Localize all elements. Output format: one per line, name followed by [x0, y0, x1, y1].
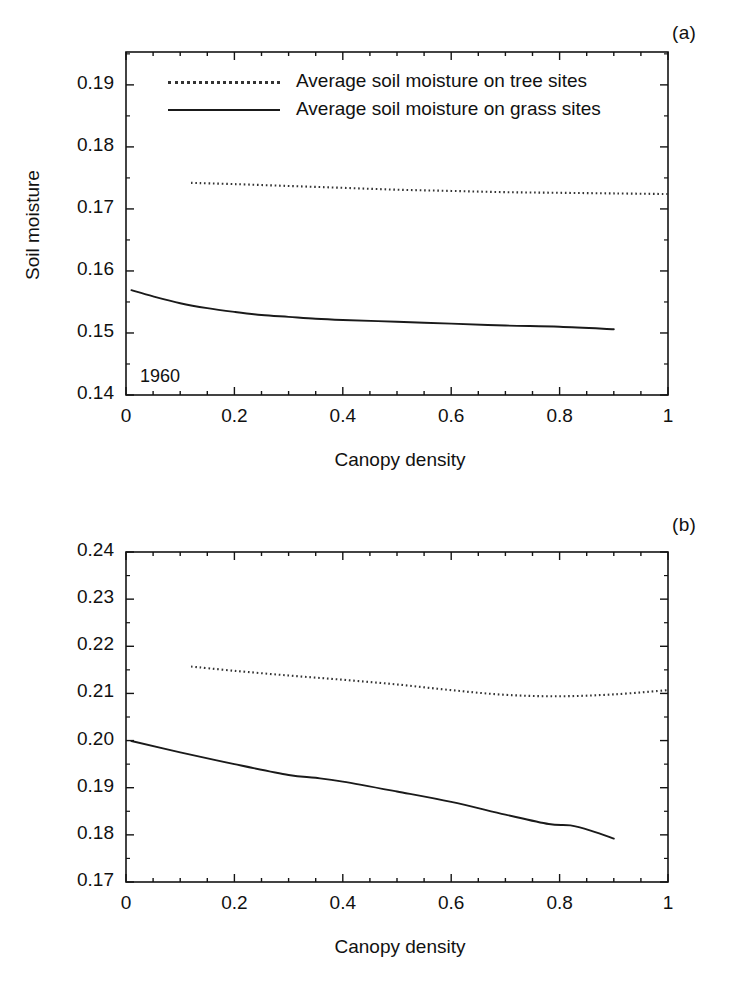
x-tick-label: 0.2 [209, 892, 259, 914]
y-tick-label: 0.18 [52, 134, 114, 156]
x-tick-label: 0.6 [426, 892, 476, 914]
figure-soil-moisture-vs-canopy-density: (a) Average soil moisture on tree sites … [0, 0, 736, 987]
x-tick-label: 0.4 [318, 405, 368, 427]
x-tick-label: 1 [643, 892, 693, 914]
y-tick-label: 0.15 [52, 320, 114, 342]
chart-panel-b: (b) Average soil moisture on tree sites … [0, 494, 736, 987]
year-annotation-a: 1960 [140, 366, 180, 387]
x-tick-label: 1 [643, 405, 693, 427]
y-tick-label: 0.18 [52, 822, 114, 844]
legend-swatch-dotted-icon [168, 81, 280, 87]
x-tick-label: 0.4 [318, 892, 368, 914]
legend-swatch-solid-icon [168, 109, 280, 114]
y-tick-label: 0.20 [52, 728, 114, 750]
y-tick-label: 0.21 [52, 680, 114, 702]
y-tick-label: 0.19 [52, 72, 114, 94]
y-axis-label-a: Soil moisture [22, 145, 44, 305]
x-axis-label-a: Canopy density [250, 449, 550, 471]
y-tick-label: 0.16 [52, 258, 114, 280]
y-tick-label: 0.17 [52, 869, 114, 891]
y-tick-label: 0.17 [52, 196, 114, 218]
y-tick-label: 0.14 [52, 382, 114, 404]
x-tick-label: 0.2 [209, 405, 259, 427]
y-tick-label: 0.24 [52, 539, 114, 561]
y-tick-label: 0.19 [52, 775, 114, 797]
legend-label-grass: Average soil moisture on grass sites [296, 98, 601, 120]
legend-label-tree: Average soil moisture on tree sites [296, 70, 587, 92]
x-tick-label: 0 [101, 405, 151, 427]
y-tick-label: 0.23 [52, 586, 114, 608]
chart-panel-a: (a) Average soil moisture on tree sites … [0, 0, 736, 494]
x-tick-label: 0 [101, 892, 151, 914]
x-tick-label: 0.8 [535, 892, 585, 914]
y-tick-label: 0.22 [52, 633, 114, 655]
x-tick-label: 0.6 [426, 405, 476, 427]
x-tick-label: 0.8 [535, 405, 585, 427]
x-axis-label-b: Canopy density [250, 936, 550, 958]
